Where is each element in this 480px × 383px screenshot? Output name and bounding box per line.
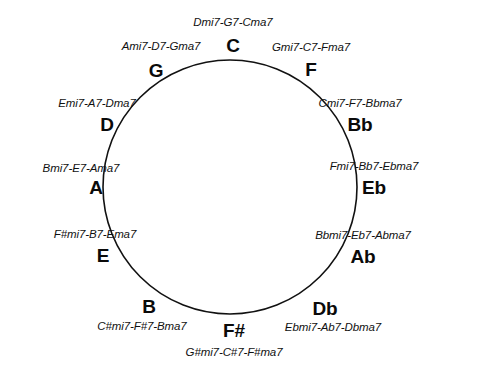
- key-letter-f: F: [305, 60, 316, 79]
- key-letter-ab: Ab: [351, 247, 376, 266]
- progression-label-b: C#mi7-F#7-Bma7: [97, 321, 186, 333]
- progression-label-c: Dmi7-G7-Cma7: [193, 17, 272, 29]
- key-letter-eb: Eb: [362, 178, 386, 197]
- key-letter-c: C: [226, 36, 240, 55]
- circle-of-fifths-diagram: CDmi7-G7-Cma7FGmi7-C7-Fma7BbCmi7-F7-Bbma…: [0, 0, 480, 383]
- key-letter-b: B: [142, 297, 156, 316]
- key-letter-g: G: [149, 61, 164, 80]
- progression-label-db: Ebmi7-Ab7-Dbma7: [285, 322, 381, 334]
- key-letter-e: E: [97, 246, 109, 265]
- key-letter-bb: Bb: [348, 115, 373, 134]
- progression-label-a: Bmi7-E7-Ama7: [43, 163, 120, 175]
- progression-label-d: Emi7-A7-Dma7: [58, 98, 135, 110]
- progression-label-f: Gmi7-C7-Fma7: [272, 42, 350, 54]
- key-letter-a: A: [89, 178, 103, 197]
- progression-label-fsharp: G#mi7-C#7-F#ma7: [186, 347, 283, 359]
- key-letter-db: Db: [313, 299, 338, 318]
- progression-label-e: F#mi7-B7-Ema7: [54, 229, 136, 241]
- key-letter-fsharp: F#: [223, 321, 245, 340]
- progression-label-eb: Fmi7-Bb7-Ebma7: [330, 161, 419, 173]
- progression-label-ab: Bbmi7-Eb7-Abma7: [315, 230, 411, 242]
- progression-label-bb: Cmi7-F7-Bbma7: [318, 98, 401, 110]
- key-letter-d: D: [100, 115, 114, 134]
- progression-label-g: Ami7-D7-Gma7: [122, 41, 201, 53]
